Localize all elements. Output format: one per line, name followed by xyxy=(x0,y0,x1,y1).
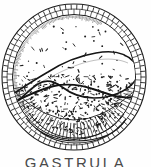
figure-caption: GASTRULA xyxy=(0,155,151,167)
gastrula-illustration xyxy=(0,0,151,167)
gastrula-figure: GASTRULA xyxy=(0,0,151,167)
